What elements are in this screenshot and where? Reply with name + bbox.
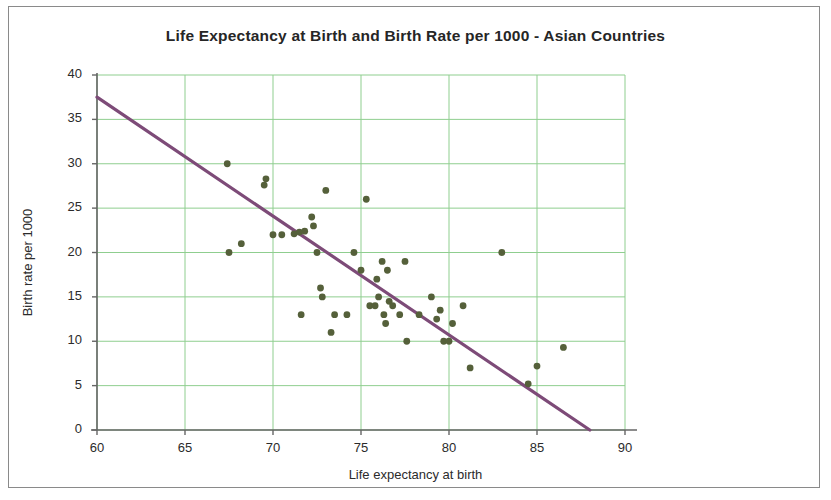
tick-marks — [92, 75, 625, 435]
y-tick-label: 40 — [52, 66, 82, 81]
y-tick-label: 30 — [52, 155, 82, 170]
x-tick-label: 85 — [517, 440, 557, 455]
y-tick-label: 5 — [52, 377, 82, 392]
y-tick-label: 20 — [52, 244, 82, 259]
x-tick-label: 90 — [605, 440, 645, 455]
x-tick-label: 60 — [77, 440, 117, 455]
x-tick-label: 80 — [429, 440, 469, 455]
y-tick-label: 0 — [52, 421, 82, 436]
x-tick-label: 75 — [341, 440, 381, 455]
x-tick-label: 70 — [253, 440, 293, 455]
y-tick-label: 35 — [52, 110, 82, 125]
trendline — [97, 97, 590, 430]
plot-area — [0, 0, 831, 500]
y-tick-label: 10 — [52, 332, 82, 347]
y-tick-label: 25 — [52, 199, 82, 214]
data-points — [224, 160, 567, 387]
axis-lines — [91, 73, 637, 430]
scatter-chart: Life Expectancy at Birth and Birth Rate … — [0, 0, 831, 500]
gridlines — [97, 75, 625, 430]
y-tick-label: 15 — [52, 288, 82, 303]
x-tick-label: 65 — [165, 440, 205, 455]
